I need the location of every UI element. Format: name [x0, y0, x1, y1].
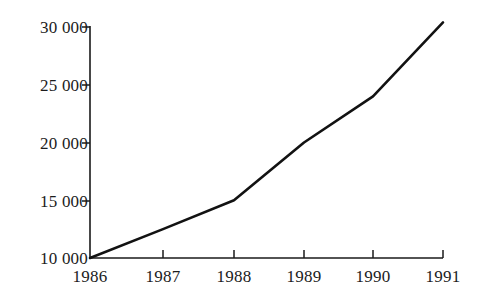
y-axis-label-30000: 30 000: [40, 19, 88, 36]
x-axis-label-1986: 1986: [73, 268, 108, 285]
y-axis-label-15000: 15 000: [40, 193, 88, 210]
x-axis-label-1990: 1990: [356, 268, 391, 285]
x-axis-label-1987: 1987: [146, 268, 181, 285]
line-chart: 30 000 25 000 20 000 15 000 10 000 1986 …: [0, 0, 486, 306]
y-axis-label-10000: 10 000: [40, 250, 88, 267]
x-axis-label-1988: 1988: [217, 268, 252, 285]
y-axis-label-25000: 25 000: [40, 77, 88, 94]
y-axis-label-20000: 20 000: [40, 135, 88, 152]
x-axis-label-1991: 1991: [426, 268, 461, 285]
data-series-line: [90, 22, 443, 258]
x-axis-label-1989: 1989: [287, 268, 322, 285]
